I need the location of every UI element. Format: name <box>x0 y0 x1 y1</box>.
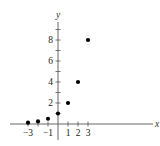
scatter-chart: −3−11232468 x y <box>0 0 160 146</box>
data-point <box>76 80 80 84</box>
y-axis-label: y <box>55 10 61 20</box>
data-point <box>46 117 50 121</box>
data-point <box>56 111 60 115</box>
x-tick-label: −3 <box>23 128 33 138</box>
y-tick-label: 6 <box>48 56 53 66</box>
data-point <box>26 121 30 125</box>
data-point <box>86 38 90 42</box>
x-tick-label: 2 <box>76 128 81 138</box>
x-axis-label: x <box>154 119 160 129</box>
x-tick-label: 3 <box>86 128 91 138</box>
x-tick-label: 1 <box>66 128 71 138</box>
y-tick-label: 2 <box>48 98 53 108</box>
data-point <box>36 119 40 123</box>
x-tick-label: −1 <box>43 128 53 138</box>
y-tick-label: 8 <box>48 35 53 45</box>
axes <box>10 22 153 140</box>
data-point <box>66 101 70 105</box>
y-tick-label: 4 <box>48 77 53 87</box>
